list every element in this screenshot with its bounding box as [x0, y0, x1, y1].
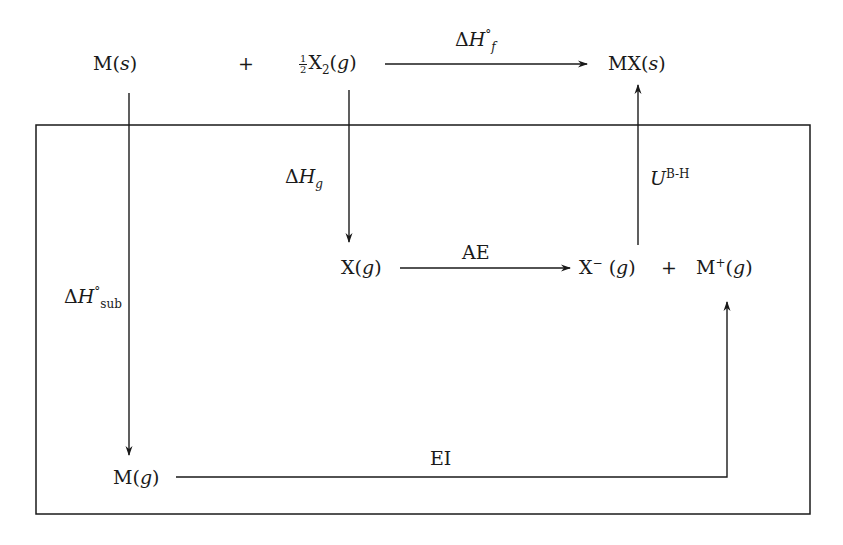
species-metal-ion-gas: M+(g): [696, 258, 753, 277]
species-halogen-gas: 12X2(g): [299, 53, 357, 75]
ionization-path: [176, 302, 727, 477]
ionization-energy-label: EI: [430, 449, 451, 468]
electron-affinity-label: AE: [462, 243, 490, 262]
species-metal-solid: M(s): [93, 54, 137, 73]
atomization-enthalpy-label: ΔHg: [285, 167, 323, 186]
plus-sign-top: +: [238, 54, 254, 73]
species-halogen-atom-gas: X(g): [341, 258, 382, 277]
coefficient-fraction: 12: [299, 54, 307, 75]
lattice-energy-label: UB-H: [650, 169, 690, 188]
sublimation-enthalpy-label: ΔH°sub: [64, 287, 122, 306]
species-product-solid: MX(s): [608, 54, 666, 73]
species-metal-gas: M(g): [113, 468, 159, 487]
formation-enthalpy-label: ΔH°f: [455, 30, 496, 49]
cycle-box: [36, 125, 810, 514]
species-halide-ion-gas: X− (g): [579, 258, 636, 277]
plus-sign-middle: +: [661, 258, 677, 277]
